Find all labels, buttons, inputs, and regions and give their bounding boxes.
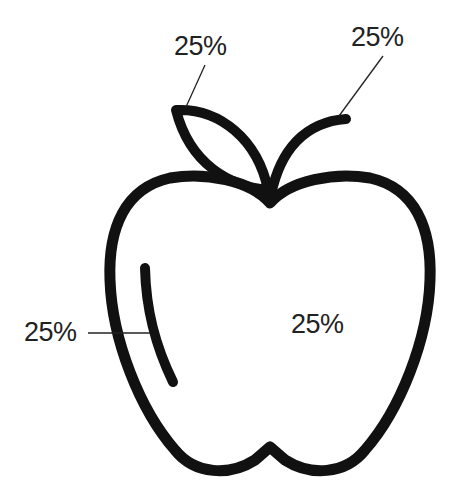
leader-line-stem (339, 56, 383, 116)
apple-body-outline (110, 176, 430, 471)
highlight-percentage-label: 25% (24, 319, 77, 346)
apple-diagram (0, 0, 455, 504)
stem-percentage-label: 25% (351, 24, 404, 51)
leaf-percentage-label: 25% (174, 33, 227, 60)
body-percentage-label: 25% (291, 311, 344, 338)
apple-highlight (145, 268, 173, 382)
leader-line-leaf (186, 65, 205, 107)
